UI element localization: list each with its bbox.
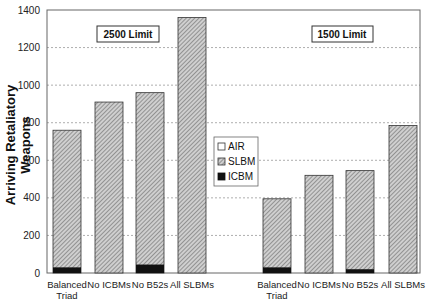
svg-text:No ICBMs: No ICBMs — [87, 279, 131, 290]
svg-text:1500 Limit: 1500 Limit — [318, 29, 368, 40]
svg-text:ICBM: ICBM — [228, 171, 253, 182]
svg-text:1400: 1400 — [18, 5, 41, 16]
legend: AIR SLBM ICBM — [214, 137, 258, 186]
legend-air-swatch — [218, 143, 225, 150]
svg-text:Balanced: Balanced — [47, 279, 87, 290]
bar-slbm — [136, 93, 164, 273]
bar-icbm — [53, 267, 81, 273]
bar-slbm — [389, 126, 417, 273]
bar-slbm — [53, 130, 81, 273]
svg-text:No B52s: No B52s — [342, 279, 379, 290]
bar-icbm — [263, 267, 291, 273]
svg-text:Triad: Triad — [266, 290, 287, 301]
svg-text:No B52s: No B52s — [132, 279, 169, 290]
legend-icbm-swatch — [218, 173, 225, 180]
x-axis-labels: BalancedTriadNo ICBMsNo B52sAll SLBMsBal… — [47, 279, 425, 301]
y-axis-label: Arriving Retaliatory Weapons — [3, 65, 33, 225]
svg-text:0: 0 — [34, 268, 40, 279]
bar-slbm — [95, 102, 123, 273]
bar-slbm — [263, 199, 291, 273]
svg-text:200: 200 — [23, 230, 40, 241]
svg-text:All SLBMs: All SLBMs — [170, 279, 214, 290]
bar-slbm — [178, 18, 206, 273]
svg-text:No ICBMs: No ICBMs — [297, 279, 341, 290]
svg-text:All SLBMs: All SLBMs — [381, 279, 425, 290]
bar-slbm — [346, 171, 374, 273]
svg-text:AIR: AIR — [228, 141, 245, 152]
svg-text:Balanced: Balanced — [257, 279, 297, 290]
svg-text:SLBM: SLBM — [228, 156, 255, 167]
svg-text:Triad: Triad — [56, 290, 77, 301]
group-label-2500: 2500 Limit — [97, 26, 159, 42]
bar-slbm — [305, 175, 333, 273]
chart: 0200400600800100012001400 BalancedTriadN… — [0, 0, 428, 306]
bar-icbm — [346, 269, 374, 273]
bar-icbm — [136, 265, 164, 273]
svg-text:1200: 1200 — [18, 42, 41, 53]
svg-text:2500 Limit: 2500 Limit — [104, 29, 154, 40]
group-label-1500: 1500 Limit — [312, 26, 373, 42]
legend-slbm-swatch — [218, 158, 225, 165]
